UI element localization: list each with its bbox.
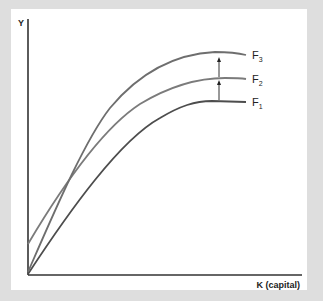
- chart-svg: F3 F2 F1 Y K (capital): [0, 0, 323, 301]
- label-f1: F1: [252, 96, 263, 110]
- label-f2: F2: [252, 73, 263, 87]
- label-f3: F3: [252, 49, 263, 63]
- shift-arrow-f1-f2: [217, 80, 221, 100]
- curve-f2: [28, 78, 246, 244]
- x-axis-label: K (capital): [256, 280, 300, 290]
- shift-arrow-f2-f3: [217, 57, 221, 77]
- curve-f3: [28, 52, 246, 272]
- curve-f1: [28, 101, 246, 274]
- y-axis-label: Y: [18, 18, 24, 28]
